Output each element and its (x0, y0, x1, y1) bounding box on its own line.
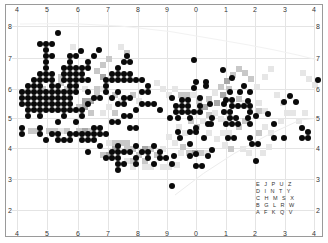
record-dot (305, 135, 311, 141)
record-dot (223, 121, 229, 127)
record-dot (127, 59, 133, 65)
y-tick-label: 6 (8, 86, 12, 93)
key-row: A F K Q V (256, 209, 286, 216)
record-dot (25, 113, 31, 119)
record-dot (79, 113, 85, 119)
x-tick-label: 2 (253, 6, 257, 13)
record-dot (133, 161, 139, 167)
record-dot (299, 125, 305, 131)
record-dot (133, 143, 139, 149)
record-dot (55, 119, 61, 125)
x-tick-label: 6 (76, 6, 80, 13)
x-tick-label: 7 (106, 230, 110, 237)
record-dot (247, 89, 253, 95)
record-dot (78, 48, 84, 54)
record-dot (37, 113, 43, 119)
record-dot (271, 135, 277, 141)
record-dot (187, 141, 193, 147)
record-dot (91, 53, 97, 59)
record-dot (281, 135, 287, 141)
record-dot (293, 99, 299, 105)
record-dot (171, 153, 177, 159)
x-tick-label: 3 (283, 230, 287, 237)
record-dot (115, 167, 121, 173)
record-dot (163, 155, 169, 161)
record-dot (151, 143, 157, 149)
record-dot (220, 67, 226, 73)
record-dot (37, 131, 43, 137)
key-row: C H M S X (256, 195, 286, 202)
y-tick-label: 5 (8, 115, 12, 122)
record-dot (265, 111, 271, 117)
record-dot (151, 161, 157, 167)
record-dot (115, 89, 121, 95)
record-dot (169, 183, 175, 189)
record-dot (85, 77, 91, 83)
x-tick-label: 9 (165, 6, 169, 13)
record-dot (207, 101, 213, 107)
y-tick-label: 5 (316, 115, 320, 122)
x-tick-label: 1 (224, 6, 228, 13)
x-tick-label: 4 (312, 6, 316, 13)
record-dot (133, 107, 139, 113)
x-tick-label: 5 (45, 6, 49, 13)
record-dot (231, 135, 237, 141)
record-dot (121, 101, 127, 107)
record-dot (133, 125, 139, 131)
y-tick-label: 8 (8, 23, 12, 30)
x-tick-label: 2 (253, 230, 257, 237)
record-dot (237, 89, 243, 95)
record-dot (97, 95, 103, 101)
x-tick-label: 6 (76, 230, 80, 237)
record-dot (169, 95, 175, 101)
record-dot (201, 135, 207, 141)
record-dot (191, 85, 197, 91)
record-dot (221, 101, 227, 107)
record-dot (67, 137, 73, 143)
y-tick-label: 2 (8, 207, 12, 214)
key-row: D I N T Y (256, 188, 286, 195)
record-dot (197, 95, 203, 101)
record-dot (43, 137, 49, 143)
record-dot (227, 89, 233, 95)
x-tick-label: 4 (312, 230, 316, 237)
record-dot (175, 115, 181, 121)
record-dot (49, 41, 55, 47)
record-dot (305, 129, 311, 135)
record-dot (241, 83, 247, 89)
record-dot (139, 77, 145, 83)
record-dot (127, 149, 133, 155)
record-dot (73, 89, 79, 95)
record-dot (103, 131, 109, 137)
record-dot (233, 115, 239, 121)
record-dot (203, 83, 209, 89)
x-tick-label: 4 (15, 6, 19, 13)
record-dot (109, 95, 115, 101)
record-dot (271, 121, 277, 127)
y-tick-label: 4 (316, 145, 320, 152)
x-tick-label: 3 (283, 6, 287, 13)
record-dot (167, 115, 173, 121)
record-dot (199, 163, 205, 169)
record-dot (191, 57, 197, 63)
record-dot (97, 143, 103, 149)
x-tick-label: 7 (106, 6, 110, 13)
x-tick-label: 9 (165, 230, 169, 237)
record-dot (281, 99, 287, 105)
key-row: E J P U Z (256, 181, 286, 188)
x-tick-label: 0 (194, 6, 198, 13)
record-dot (85, 89, 91, 95)
x-tick-label: 8 (136, 230, 140, 237)
record-dot (229, 75, 235, 81)
record-dot (103, 89, 109, 95)
x-tick-label: 5 (45, 230, 49, 237)
record-dot (151, 101, 157, 107)
y-tick-label: 7 (8, 55, 12, 62)
record-dot (115, 119, 121, 125)
x-tick-label: 8 (136, 6, 140, 13)
record-dot (255, 141, 261, 147)
record-dot (85, 65, 91, 71)
record-dot (73, 53, 79, 59)
record-dot (208, 121, 214, 127)
y-tick-label: 4 (8, 145, 12, 152)
